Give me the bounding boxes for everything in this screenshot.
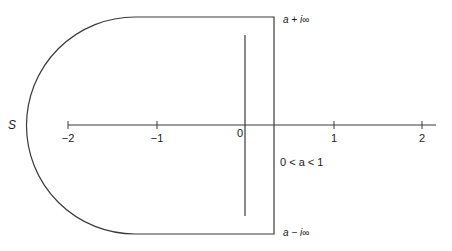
tick-label-neg2: −2	[62, 133, 75, 144]
tick-label-neg1: −1	[151, 133, 164, 144]
tick-label-0: 0	[237, 128, 243, 139]
lower-limit-label: a − i∞	[283, 228, 309, 238]
contour-label: S	[8, 119, 16, 131]
tick-label-1: 1	[331, 133, 337, 144]
condition-label: 0 < a < 1	[280, 157, 323, 168]
contour-diagram: S −2 −1 0 1 2 a + i∞ a − i∞ 0 < a < 1	[0, 0, 452, 251]
tick-label-2: 2	[419, 133, 425, 144]
upper-limit-label: a + i∞	[283, 15, 309, 25]
contour-drawing	[0, 0, 452, 251]
